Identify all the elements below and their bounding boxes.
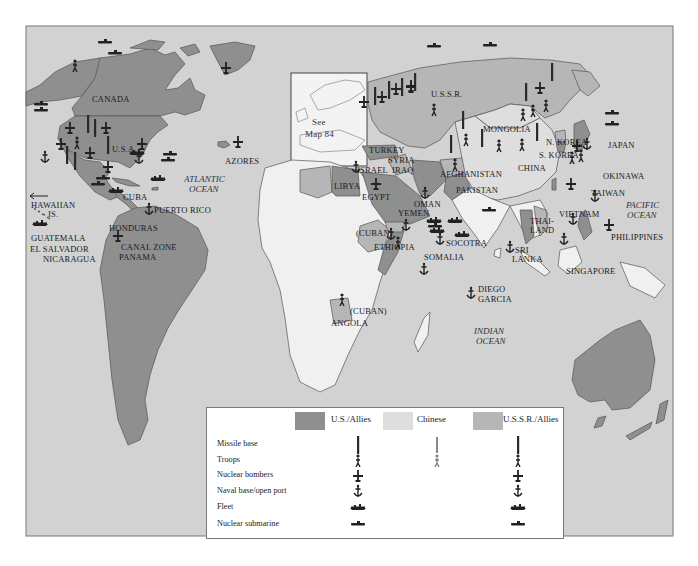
missile-icon xyxy=(357,436,359,454)
label-china: CHINA xyxy=(518,163,547,173)
label-somalia: SOMALIA xyxy=(424,252,465,262)
label-socotra: SOCOTRA xyxy=(446,238,488,248)
taiwan xyxy=(552,178,556,190)
label-indian: INDIAN xyxy=(473,326,505,336)
label-philippines: PHILIPPINES xyxy=(611,232,663,242)
label-pacific-ocean: OCEAN xyxy=(627,210,657,220)
label-azores: AZORES xyxy=(225,156,259,166)
europe-inset: See Map 84 xyxy=(291,73,367,166)
label-turkey: TURKEY xyxy=(369,145,405,155)
submarine-icon xyxy=(351,521,365,525)
fleet-icon xyxy=(350,504,366,510)
libya xyxy=(300,166,332,198)
label-afghanistan: AFGHANISTAN xyxy=(440,169,502,179)
label-singapore: SINGAPORE xyxy=(566,266,616,276)
label-israel: ISRAEL xyxy=(357,165,388,175)
label-s-korea: S. KOREA xyxy=(539,150,580,160)
troops-icon xyxy=(356,454,360,467)
label-libya: LIBYA xyxy=(334,181,361,191)
label-garcia: GARCIA xyxy=(478,294,512,304)
label-canada: CANADA xyxy=(92,94,130,104)
label-mongolia: MONGOLIA xyxy=(483,124,532,134)
label-ethiopia: ETHIOPIA xyxy=(374,242,415,252)
label-angola: ANGOLA xyxy=(331,318,369,328)
label-puerto-rico: PUERTO RICO xyxy=(154,205,211,215)
label-okinawa: OKINAWA xyxy=(603,171,645,181)
label-land: LAND xyxy=(530,225,554,235)
missile-icon-ussr xyxy=(517,436,519,454)
inset-label-map: Map 84 xyxy=(305,129,334,139)
legend-icons xyxy=(207,408,567,538)
troops-icon-chinese xyxy=(435,454,439,467)
label-lanka: LANKA xyxy=(512,254,543,264)
anchor-icon-ussr xyxy=(514,485,522,497)
label-canal-zone: CANAL ZONE xyxy=(121,242,177,252)
label-iraq: IRAQ xyxy=(392,165,414,175)
label-guatemala: GUATEMALA xyxy=(31,233,86,243)
label-taiwan: TAIWAN xyxy=(591,188,625,198)
legend: U.S./Allies Chinese U.S.S.R./Allies Miss… xyxy=(206,407,564,539)
label-ussr: U.S.S.R. xyxy=(431,89,462,99)
bomber-icon-ussr xyxy=(513,470,523,482)
fleet-icon-ussr xyxy=(510,504,526,510)
label-atlantic: ATLANTIC xyxy=(183,174,226,184)
label-pakistan: PAKISTAN xyxy=(456,185,498,195)
label-cuban-angola: (CUBAN) xyxy=(350,306,387,316)
label-vietnam: VIETNAM xyxy=(559,209,600,219)
troops-icon-ussr xyxy=(516,454,520,467)
inset-label-see: See xyxy=(312,117,326,127)
label-cuban-ethiopia: (CUBAN) xyxy=(356,228,393,238)
bomber-icon xyxy=(353,470,363,482)
label-hawaiian-is: IS. xyxy=(48,209,58,219)
label-japan: JAPAN xyxy=(608,140,635,150)
label-diego: DIEGO xyxy=(478,284,505,294)
label-cuba: CUBA xyxy=(123,192,148,202)
label-usa: U.S.A. xyxy=(112,144,137,154)
label-panama: PANAMA xyxy=(119,252,157,262)
submarine-icon-ussr xyxy=(511,521,525,525)
label-honduras: HONDURAS xyxy=(109,223,158,233)
label-indian-ocean: OCEAN xyxy=(476,336,506,346)
label-el-salvador: EL SALVADOR xyxy=(30,244,89,254)
label-egypt: EGYPT xyxy=(362,192,391,202)
anchor-icon xyxy=(354,485,362,497)
label-syria: SYRIA xyxy=(388,155,415,165)
label-atlantic-ocean: OCEAN xyxy=(189,184,219,194)
label-nicaragua: NICARAGUA xyxy=(43,254,96,264)
label-n-korea: N. KOREA xyxy=(546,137,588,147)
label-yemen: YEMEN xyxy=(398,208,429,218)
label-pacific: PACIFIC xyxy=(625,200,660,210)
